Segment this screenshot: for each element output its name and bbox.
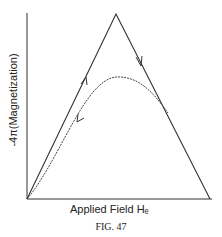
triangle-lines <box>27 14 210 199</box>
down-arrow-icon <box>136 56 142 66</box>
figure-caption: FIG. 47 <box>0 221 222 232</box>
return-arrow-icon <box>77 114 84 122</box>
y-axis-label: -4π(Magnetization) <box>7 35 19 165</box>
magnetization-diagram <box>0 0 222 237</box>
x-axis-label: Applied Field Hₑ <box>70 203 149 215</box>
return-curve <box>27 77 168 199</box>
